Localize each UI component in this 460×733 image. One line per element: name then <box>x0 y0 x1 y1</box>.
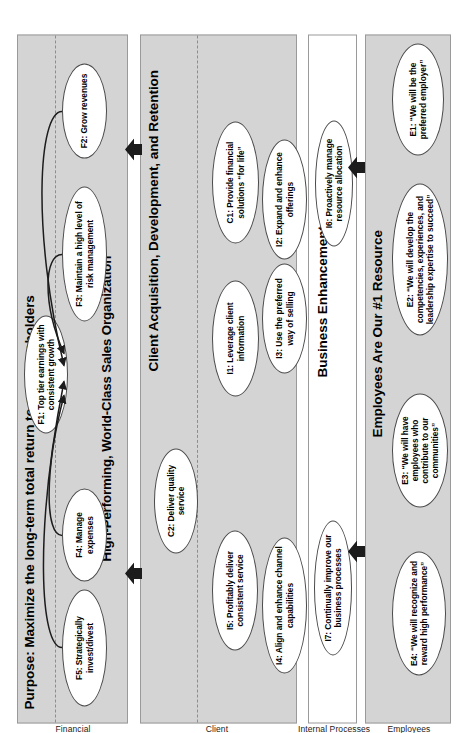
node-c1-label: C1: Provide financial solutions “for lif… <box>225 129 246 235</box>
row-label-client: Client <box>182 723 252 733</box>
node-e1[interactable]: E1: “We will be the preferred employer” <box>392 43 444 155</box>
node-i7-label: I7: Continually improve our business pro… <box>323 528 344 647</box>
node-e2[interactable]: E2: “We will develop the competencies, e… <box>392 183 448 335</box>
node-e2-label: E2: “We will develop the competencies, e… <box>405 191 436 327</box>
divider-client <box>197 35 198 722</box>
node-e3[interactable]: E3: “We will have employees who contribu… <box>392 393 448 507</box>
node-f3[interactable]: F3: Maintain a high level of risk manage… <box>62 186 107 321</box>
block-arrow-employees-to-internal-2 <box>348 156 365 178</box>
block-arrow-employees-to-internal-1 <box>348 540 365 562</box>
row-label-financial: Financial <box>38 723 108 733</box>
node-i5-label: I5: Profitably deliver consistent servic… <box>225 538 246 642</box>
node-i1-label: I1: Leverage client information <box>225 288 246 388</box>
node-i5[interactable]: I5: Profitably deliver consistent servic… <box>212 530 258 650</box>
node-f1[interactable]: F1: Top tier earnings with consistent gr… <box>24 315 68 433</box>
block-arrow-client-to-financial-1 <box>125 562 142 584</box>
node-f4-label: F4: Manage expenses <box>74 496 95 573</box>
node-f2[interactable]: F2: Grow revenues <box>62 63 107 158</box>
node-e1-label: E1: “We will be the preferred employer” <box>408 51 429 147</box>
node-i7[interactable]: I7: Continually improve our business pro… <box>314 520 352 655</box>
node-f4[interactable]: F4: Manage expenses <box>62 488 107 581</box>
node-f5-label: F5: Strategically invest/divest <box>74 597 95 698</box>
node-e4[interactable]: E4: “We will recognize and reward high p… <box>392 551 446 675</box>
node-i2[interactable]: I2: Expand and enhance offerings <box>262 139 307 259</box>
node-c1[interactable]: C1: Provide financial solutions “for lif… <box>212 121 259 243</box>
node-f1-label: F1: Top tier earnings with consistent gr… <box>36 323 57 425</box>
node-c2[interactable]: C2: Deliver quality service <box>154 448 198 553</box>
node-f3-label: F3: Maintain a high level of risk manage… <box>74 194 95 313</box>
node-e3-label: E3: “We will have employees who contribu… <box>400 401 441 499</box>
node-f5[interactable]: F5: Strategically invest/divest <box>62 589 107 706</box>
node-i1[interactable]: I1: Leverage client information <box>212 280 259 396</box>
node-i2-label: I2: Expand and enhance offerings <box>274 147 295 251</box>
band-title-employees-resource: Employees Are Our #1 Resource <box>370 230 385 437</box>
block-arrow-client-to-financial-2 <box>125 138 142 160</box>
node-i6[interactable]: I6: Proactively manage resource allocati… <box>315 120 353 246</box>
node-e4-label: E4: “We will recognize and reward high p… <box>409 559 430 667</box>
node-c2-label: C2: Deliver quality service <box>166 456 187 545</box>
band-title-business-enhancement: Business Enhancement <box>315 226 330 377</box>
node-f2-label: F2: Grow revenues <box>79 73 89 148</box>
node-i4[interactable]: I4: Align and enhance channel capabiliti… <box>262 537 307 673</box>
node-i6-label: I6: Proactively manage resource allocati… <box>324 128 345 238</box>
band-title-client-acquisition: Client Acquisition, Development, and Ret… <box>146 69 161 371</box>
node-i3-label: I3: Use the preferred way of selling <box>274 271 295 365</box>
node-i3[interactable]: I3: Use the preferred way of selling <box>262 263 307 373</box>
row-label-employees: Employees <box>374 723 444 733</box>
row-label-internal-processes: Internal Processes <box>298 723 368 733</box>
node-i4-label: I4: Align and enhance channel capabiliti… <box>274 545 295 665</box>
strategy-map-canvas: Purpose: Maximize the long-term total re… <box>0 0 460 733</box>
